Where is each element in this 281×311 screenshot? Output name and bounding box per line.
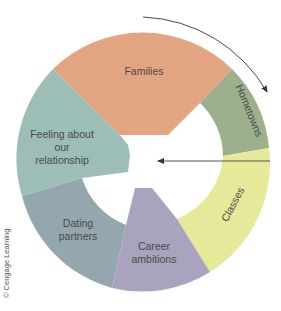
label-feeling-line3: relationship bbox=[35, 154, 89, 166]
label-career-line1: Career bbox=[138, 240, 171, 252]
label-dating-line1: Dating bbox=[63, 217, 94, 229]
label-career-line2: ambitions bbox=[132, 253, 177, 265]
label-families: Families bbox=[124, 65, 163, 77]
copyright-credit: © Cengage Learning bbox=[2, 229, 11, 298]
label-feeling-line1: Feeling about bbox=[30, 128, 94, 140]
label-feeling-line2: our bbox=[54, 141, 70, 153]
label-dating-line2: partners bbox=[59, 230, 98, 242]
ring-diagram: Families Hometowns Classes Career ambiti… bbox=[0, 0, 281, 311]
